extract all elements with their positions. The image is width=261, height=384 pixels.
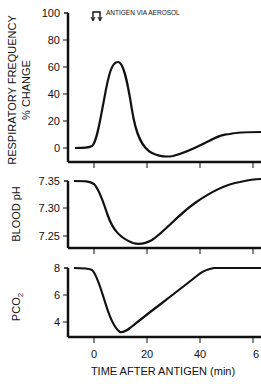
panel-blood-ph: 7.35 7.30 7.25 BLOOD pH [10,175,261,254]
ylabel-percent-change: % CHANGE [20,60,32,120]
ytick-60: 60 [48,61,60,73]
ytick-0: 0 [54,142,60,154]
ylabel-pco2: PCO2 [10,292,25,321]
ytick-100: 100 [42,7,60,19]
xtick-0: 0 [91,348,97,360]
xlabel-time-after-antigen: TIME AFTER ANTIGEN (min) [91,365,235,377]
xtick-60: 6 [253,348,259,360]
svg-text:PCO2: PCO2 [10,292,25,321]
panel-respiratory-frequency: 100 80 60 40 20 0 RESPIRATORY FREQUENCY … [6,7,261,168]
ylabel-blood-ph: BLOOD pH [10,186,22,242]
ytick-7.25: 7.25 [39,230,60,242]
series-pco2 [74,268,261,332]
ylabel-respiratory-frequency: RESPIRATORY FREQUENCY [6,15,18,165]
series-blood-ph [74,179,261,244]
annotation-antigen-via-aerosol: ANTIGEN VIA AEROSOL [106,9,180,16]
ytick-40: 40 [48,88,60,100]
xtick-40: 40 [194,348,206,360]
ytick-7.35: 7.35 [39,175,60,187]
ytick-8: 8 [54,262,60,274]
ytick-4: 4 [54,316,60,328]
chart-figure: 100 80 60 40 20 0 RESPIRATORY FREQUENCY … [0,0,261,384]
ytick-20: 20 [48,115,60,127]
antigen-marker-icon [91,12,102,21]
ytick-80: 80 [48,34,60,46]
ytick-7.30: 7.30 [39,202,60,214]
panel-pco2: 8 6 4 PCO2 0 20 40 6 TIME AFTER ANTIGEN … [10,262,261,377]
xtick-20: 20 [141,348,153,360]
ytick-6: 6 [54,289,60,301]
series-respiratory-frequency [75,62,261,157]
